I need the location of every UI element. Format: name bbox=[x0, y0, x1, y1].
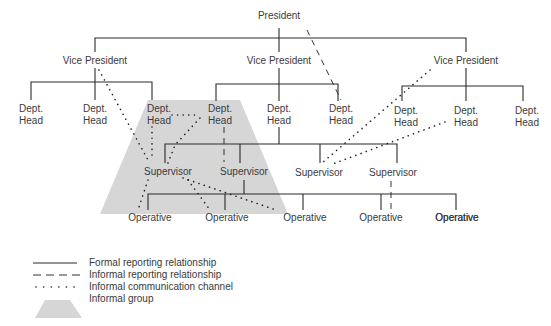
node-label-line: Dept. bbox=[329, 103, 353, 114]
node-label-line: Head bbox=[147, 115, 171, 126]
node-dept-head-2: Dept.Head bbox=[83, 103, 107, 126]
node-label-line: Head bbox=[394, 117, 418, 128]
node-vp-center: Vice President bbox=[247, 55, 312, 66]
node-label-line: Dept. bbox=[515, 105, 539, 116]
node-dept-head-6: Dept.Head bbox=[329, 103, 353, 126]
legend: Formal reporting relationship Informal r… bbox=[33, 257, 233, 304]
node-dept-head-3: Dept.Head bbox=[147, 103, 171, 126]
node-supervisor-4: Supervisor bbox=[369, 167, 417, 178]
node-label-line: Dept. bbox=[267, 103, 291, 114]
org-chart-diagram: PresidentVice PresidentVice PresidentVic… bbox=[0, 0, 551, 326]
node-label-line: Dept. bbox=[147, 103, 171, 114]
node-label-line: Head bbox=[267, 115, 291, 126]
node-dept-head-1: Dept.Head bbox=[19, 103, 43, 126]
dashed-line-president-dept6 bbox=[307, 30, 341, 100]
legend-label-informal-reporting: Informal reporting relationship bbox=[89, 269, 222, 280]
node-vp-right: Vice President bbox=[434, 55, 499, 66]
node-dept-head-5: Dept.Head bbox=[267, 103, 291, 126]
node-label-line: Head bbox=[515, 117, 539, 128]
legend-label-informal-group: Informal group bbox=[89, 293, 154, 304]
formal-line-president-vps bbox=[95, 38, 466, 52]
node-supervisor-1: Supervisor bbox=[144, 166, 192, 177]
node-dept-head-4: Dept.Head bbox=[208, 103, 232, 126]
formal-line-vp-left-depts bbox=[31, 82, 152, 100]
legend-label-informal-communication: Informal communication channel bbox=[89, 281, 233, 292]
node-label-line: Head bbox=[208, 115, 232, 126]
node-label-line: Head bbox=[83, 115, 107, 126]
legend-label-formal: Formal reporting relationship bbox=[89, 257, 217, 268]
node-vp-left: Vice President bbox=[63, 55, 128, 66]
node-label-line: Dept. bbox=[19, 103, 43, 114]
legend-informal-group-swatch bbox=[35, 300, 82, 318]
node-operative-2: Operative bbox=[205, 212, 249, 223]
node-label-line: Head bbox=[454, 117, 478, 128]
node-label-line: Head bbox=[19, 115, 43, 126]
node-operative-6: Operative bbox=[435, 212, 479, 223]
node-supervisor-2: Supervisor bbox=[220, 166, 268, 177]
informal-group-shape bbox=[100, 100, 288, 214]
node-label-line: Dept. bbox=[208, 103, 232, 114]
node-dept-head-9: Dept.Head bbox=[515, 105, 539, 128]
formal-line-vp-center-depts bbox=[216, 84, 338, 101]
node-operative-4: Operative bbox=[359, 212, 403, 223]
node-operative-3: Operative bbox=[283, 212, 327, 223]
node-label-line: Dept. bbox=[83, 103, 107, 114]
node-dept-head-8: Dept.Head bbox=[454, 105, 478, 128]
node-supervisor-3: Supervisor bbox=[295, 167, 343, 178]
node-president: President bbox=[258, 10, 300, 21]
node-label-line: Head bbox=[329, 115, 353, 126]
node-dept-head-7: Dept.Head bbox=[394, 105, 418, 128]
node-label-line: Dept. bbox=[394, 105, 418, 116]
node-operative-1: Operative bbox=[128, 212, 172, 223]
formal-line-vp-right-depts bbox=[402, 86, 523, 101]
node-label-line: Dept. bbox=[454, 105, 478, 116]
